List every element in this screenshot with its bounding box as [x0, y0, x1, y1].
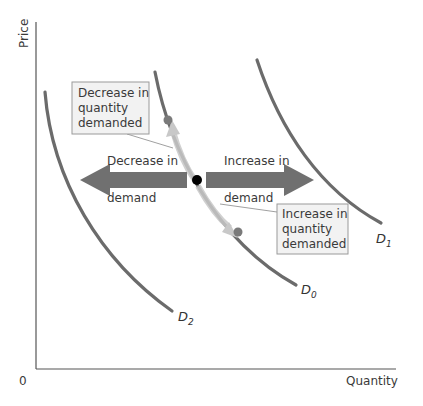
- svg-text:2: 2: [188, 317, 194, 327]
- svg-text:D: D: [178, 309, 188, 324]
- origin-label: 0: [19, 374, 27, 388]
- decrease-demand-label-2: demand: [107, 191, 156, 205]
- svg-text:0: 0: [311, 290, 317, 300]
- callout-bottom-line2: quantity: [282, 222, 332, 236]
- callout-bottom-line1: Increase in: [282, 207, 348, 221]
- callout-top-line3: demanded: [78, 116, 142, 130]
- callout-top-leader: [127, 134, 173, 148]
- svg-text:1: 1: [386, 239, 392, 249]
- demand-curve-d1: [257, 60, 381, 223]
- increase-demand-label-1: Increase in: [224, 154, 290, 168]
- demand-diagram: Price Quantity 0 Decrease in demand Incr…: [0, 0, 423, 406]
- point-decrease-qd: [164, 116, 173, 125]
- x-axis-label: Quantity: [346, 374, 398, 388]
- label-d0: D 0: [301, 282, 317, 300]
- decrease-demand-label-1: Decrease in: [107, 154, 178, 168]
- callout-top-line2: quantity: [78, 101, 128, 115]
- svg-text:D: D: [376, 231, 386, 246]
- callout-top-line1: Decrease in: [78, 86, 149, 100]
- y-axis-label: Price: [17, 19, 31, 48]
- label-d2: D 2: [178, 309, 194, 327]
- label-d1: D 1: [376, 231, 392, 249]
- point-increase-qd: [234, 228, 243, 237]
- increase-demand-label-2: demand: [224, 191, 273, 205]
- callout-bottom-line3: demanded: [282, 237, 346, 251]
- svg-text:D: D: [301, 282, 311, 297]
- callout-bottom-leader: [220, 204, 277, 212]
- point-initial: [192, 175, 202, 185]
